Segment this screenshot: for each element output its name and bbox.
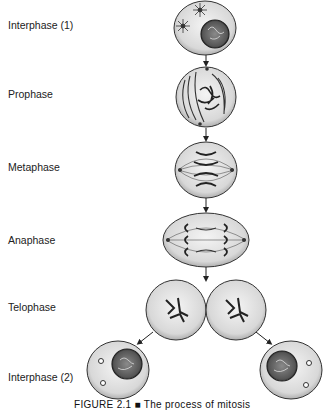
- cell-telophase: [146, 280, 266, 340]
- nucleus: [112, 349, 142, 379]
- cell-interphase-2-right: [260, 341, 322, 399]
- cell-metaphase: [175, 142, 237, 198]
- centriole-icon: [101, 381, 106, 386]
- cell-interphase-1: [174, 1, 236, 55]
- arrow: [139, 332, 153, 343]
- cell-prophase: [176, 67, 236, 127]
- arrow: [256, 332, 270, 343]
- nucleus: [201, 20, 229, 48]
- centrosome-icon: [193, 3, 207, 17]
- cell-anaphase: [163, 213, 249, 267]
- nucleus: [267, 351, 297, 381]
- figure-caption: FIGURE 2.1 ■ The process of mitosis: [74, 399, 250, 410]
- centriole-icon: [99, 359, 104, 364]
- centriole-icon: [307, 361, 312, 366]
- centriole-icon: [304, 383, 309, 388]
- centrosome-icon: [176, 19, 190, 33]
- cell-interphase-2-left: [87, 341, 149, 399]
